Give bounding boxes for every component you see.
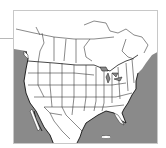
leader-line [0,38,14,39]
map-svg [14,11,158,144]
north-america-map [13,10,158,144]
cuba [101,135,111,138]
